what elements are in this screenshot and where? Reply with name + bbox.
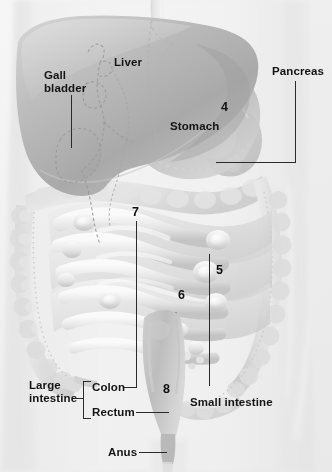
number-6: 6 (178, 288, 185, 302)
label-colon: Colon (92, 381, 125, 394)
number-5: 5 (216, 263, 223, 277)
label-pancreas: Pancreas (272, 65, 324, 78)
label-rectum: Rectum (92, 406, 135, 419)
label-liver: Liver (114, 56, 142, 69)
number-7: 7 (132, 205, 139, 219)
label-small-intestine: Small intestine (190, 396, 273, 409)
leader-large-intestine-dash (75, 398, 83, 399)
label-gall-bladder-line1: Gall (44, 69, 66, 81)
anatomy-diagram: Gallbladder Liver Pancreas Stomach 4 7 5… (0, 0, 332, 472)
leader-pancreas-vertical (295, 81, 296, 163)
label-large-intestine: Largeintestine (29, 379, 77, 404)
leader-pancreas-horizontal (216, 162, 296, 163)
leader-small-intestine (209, 254, 210, 386)
number-8: 8 (163, 382, 170, 396)
bracket-large-intestine (83, 381, 91, 419)
leader-gall-bladder (71, 95, 72, 148)
leader-colon (124, 387, 137, 388)
label-large-intestine-line2: intestine (29, 392, 77, 404)
number-4: 4 (221, 100, 228, 114)
leader-rectum (136, 412, 169, 413)
label-anus: Anus (108, 446, 137, 459)
anus-shape (161, 434, 176, 464)
label-gall-bladder-line2: bladder (44, 82, 86, 94)
leader-7-colon (136, 221, 137, 387)
leader-anus (139, 452, 167, 453)
label-gall-bladder: Gallbladder (44, 69, 86, 94)
label-stomach: Stomach (170, 120, 219, 133)
label-large-intestine-line1: Large (29, 379, 61, 391)
